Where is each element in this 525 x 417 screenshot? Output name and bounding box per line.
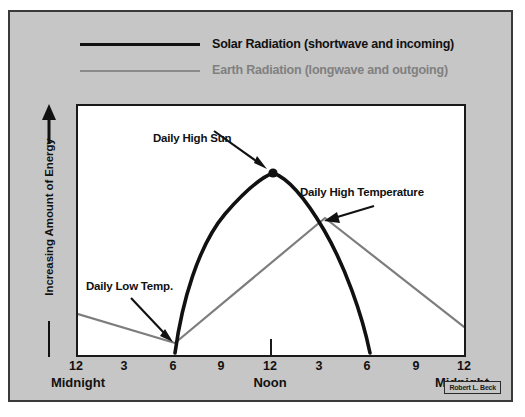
legend-item-solar-radiation: Solar Radiation (shortwave and incoming) [80, 34, 500, 60]
legend-label-earth: Earth Radiation (longwave and outgoing) [212, 60, 448, 80]
y-axis-group: Increasing Amount of Energy [34, 104, 64, 357]
annotation-daily-high-temperature: Daily High Temperature [300, 186, 424, 198]
chart-panel: Solar Radiation (shortwave and incoming)… [8, 10, 513, 402]
credit-badge: Robert L. Beck [444, 381, 501, 394]
x-axis-noon-tick [270, 339, 272, 357]
x-axis-group: 12 3 6 9 12 3 6 9 12 Midnight Noon Midni… [76, 359, 466, 403]
x-tick-label-5: 3 [316, 359, 323, 373]
figure-root: Solar Radiation (shortwave and incoming)… [0, 0, 525, 417]
daily-high-temperature-arrow-icon [324, 206, 374, 223]
x-tick-label-6: 6 [364, 359, 371, 373]
x-tick-label-4: 12 [263, 359, 277, 373]
x-tick-label-2: 6 [170, 359, 177, 373]
x-sub-label-noon: Noon [253, 375, 286, 390]
legend-item-earth-radiation: Earth Radiation (longwave and outgoing) [80, 60, 500, 86]
x-tick-label-3: 9 [218, 359, 225, 373]
legend-label-solar: Solar Radiation (shortwave and incoming) [212, 34, 454, 54]
annotation-daily-low-temperature: Daily Low Temp. [86, 280, 173, 292]
plot-area: Daily High Sun Daily High Temperature Da… [76, 104, 466, 357]
legend-line-earth-icon [80, 70, 200, 72]
y-axis-label: Increasing Amount of Energy [43, 101, 55, 333]
x-tick-label-8: 12 [457, 359, 471, 373]
daily-high-sun-marker [268, 168, 277, 177]
annotation-daily-high-sun: Daily High Sun [153, 132, 231, 144]
x-sub-label-midnight-start: Midnight [51, 375, 105, 390]
x-tick-label-0: 12 [69, 359, 83, 373]
x-tick-label-1: 3 [121, 359, 128, 373]
legend-line-solar-icon [80, 43, 200, 46]
chart-legend: Solar Radiation (shortwave and incoming)… [10, 34, 511, 96]
x-tick-label-7: 9 [413, 359, 420, 373]
chart-canvas [78, 106, 464, 355]
y-axis-rule [48, 321, 50, 357]
